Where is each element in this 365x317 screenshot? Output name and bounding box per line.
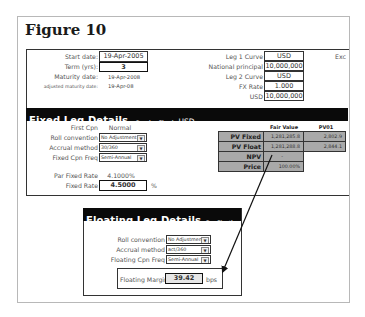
annotation-arrow-icon [0, 0, 365, 317]
